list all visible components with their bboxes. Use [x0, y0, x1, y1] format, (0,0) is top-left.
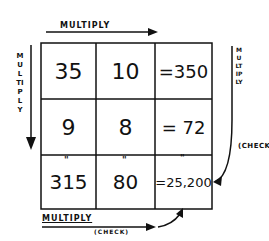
right-multiply-label: MULTIPLY — [235, 46, 243, 86]
bottom-check-label: (CHECK) — [94, 228, 129, 235]
cell-r2c3: = 72 — [155, 99, 212, 155]
right-check-label: (CHECK — [238, 142, 269, 150]
left-multiply-text: MULTIPLY — [16, 52, 24, 115]
cell-r3c2: 80 — [96, 155, 155, 209]
right-multiply-text: MULTIPLY — [235, 46, 243, 86]
left-multiply-label: MULTIPLY — [16, 52, 24, 115]
top-multiply-label: MULTIPLY — [60, 21, 110, 30]
cell-r1c1: 35 — [41, 43, 96, 99]
cell-r3c3: =25,200 — [155, 155, 212, 209]
cell-r2c1: 9 — [41, 99, 96, 155]
cell-r2c2: 8 — [96, 99, 155, 155]
cell-r1c2: 10 — [96, 43, 155, 99]
bottom-multiply-label: MULTIPLY — [42, 214, 92, 223]
cell-r3c1: 315 — [41, 155, 96, 209]
multiplication-check-diagram: MULTIPLY MULTIPLY MULTIPLY (CHECK MULTIP… — [0, 0, 269, 241]
cell-r1c3: =350 — [155, 43, 212, 99]
